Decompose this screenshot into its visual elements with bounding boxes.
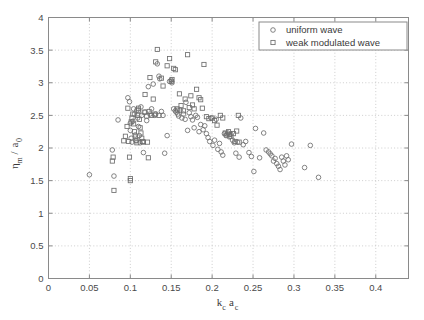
y-tick-label: 2 xyxy=(38,142,43,153)
x-tick-label: 0.2 xyxy=(206,282,219,293)
data-point-square xyxy=(200,106,204,110)
y-tick-label: 0 xyxy=(38,273,43,284)
legend-label-0: uniform wave xyxy=(286,24,343,35)
data-point-circle xyxy=(257,155,262,160)
data-point-square xyxy=(189,94,193,98)
data-point-circle xyxy=(243,139,248,144)
y-tick-label: 1.5 xyxy=(30,175,43,186)
y-tick-label: 3 xyxy=(38,77,43,88)
data-point-circle xyxy=(127,99,132,104)
y-axis-title-a: a xyxy=(8,142,20,147)
y-axis-title-eta-sub: m xyxy=(15,157,24,164)
x-tick-label: 0 xyxy=(46,282,51,293)
x-tick-label: 0.15 xyxy=(162,282,181,293)
data-point-circle xyxy=(116,118,121,123)
x-axis-title-a: a xyxy=(229,296,234,308)
data-point-circle xyxy=(302,165,307,170)
data-point-circle xyxy=(217,141,222,146)
data-point-circle xyxy=(202,124,207,129)
axis-ticks: 00.050.10.150.20.250.30.350.400.511.522.… xyxy=(30,12,408,293)
data-point-circle xyxy=(261,131,266,136)
y-tick-label: 4 xyxy=(38,12,43,23)
data-point-circle xyxy=(286,157,291,162)
x-tick-label: 0.3 xyxy=(287,282,300,293)
data-point-circle xyxy=(141,150,146,155)
data-point-circle xyxy=(253,126,258,131)
data-point-circle xyxy=(146,84,151,89)
y-tick-label: 1 xyxy=(38,208,43,219)
data-point-circle xyxy=(162,151,167,156)
data-point-square xyxy=(185,53,189,57)
data-point-circle xyxy=(185,128,190,133)
x-axis-title-k-sub: c xyxy=(222,303,226,312)
y-axis-title-a-sub: 0 xyxy=(15,138,24,142)
data-point-square xyxy=(155,47,159,51)
data-point-square xyxy=(202,62,206,66)
data-point-circle xyxy=(207,139,212,144)
data-point-circle xyxy=(112,174,117,179)
data-point-circle xyxy=(283,163,288,168)
data-point-square xyxy=(194,87,198,91)
data-point-square xyxy=(122,139,126,143)
x-tick-label: 0.1 xyxy=(124,282,137,293)
y-tick-label: 3.5 xyxy=(30,45,43,56)
data-point-square xyxy=(123,134,127,138)
data-point-circle xyxy=(110,148,115,153)
x-tick-label: 0.35 xyxy=(326,282,345,293)
data-point-circle xyxy=(165,133,170,138)
data-point-circle xyxy=(151,82,156,87)
data-point-square xyxy=(161,84,165,88)
data-point-square xyxy=(151,97,155,101)
legend: uniform waveweak modulated wave xyxy=(259,22,407,50)
data-point-circle xyxy=(252,169,257,174)
data-point-square xyxy=(215,123,219,127)
data-point-square xyxy=(165,64,169,68)
data-point-circle xyxy=(234,151,239,156)
data-point-square xyxy=(143,92,147,96)
data-point-square xyxy=(173,68,177,72)
y-tick-label: 2.5 xyxy=(30,110,43,121)
data-point-square xyxy=(172,66,176,70)
data-point-square xyxy=(112,188,116,192)
x-axis-title-a-sub: c xyxy=(235,303,239,312)
scatter-plot: 00.050.10.150.20.250.30.350.400.511.522.… xyxy=(0,0,424,320)
x-tick-label: 0.4 xyxy=(369,282,382,293)
x-tick-label: 0.25 xyxy=(244,282,263,293)
data-point-square xyxy=(127,155,131,159)
data-point-circle xyxy=(237,155,242,160)
gridlines xyxy=(49,18,409,279)
data-point-circle xyxy=(212,138,217,143)
data-point-square xyxy=(126,106,130,110)
y-tick-label: 0.5 xyxy=(30,240,43,251)
data-point-circle xyxy=(136,124,141,129)
data-point-circle xyxy=(289,142,294,147)
series-uniform-wave xyxy=(87,62,321,180)
data-point-square xyxy=(177,92,181,96)
y-axis-title: ηm/a0 xyxy=(8,138,24,169)
x-tick-label: 0.05 xyxy=(80,282,99,293)
data-point-circle xyxy=(211,143,216,148)
data-point-square xyxy=(145,140,149,144)
legend-label-1: weak modulated wave xyxy=(285,37,380,48)
x-axis-title: kcac xyxy=(217,296,239,312)
data-point-square xyxy=(148,75,152,79)
data-point-square xyxy=(146,156,150,160)
data-point-circle xyxy=(308,143,313,148)
series-weak-modulated-wave xyxy=(110,47,241,192)
data-point-circle xyxy=(316,175,321,180)
data-point-circle xyxy=(144,118,149,123)
data-point-circle xyxy=(249,154,254,159)
y-axis-title-slash: / xyxy=(8,151,20,155)
data-point-square xyxy=(179,103,183,107)
data-point-circle xyxy=(192,125,197,130)
chart-figure: 00.050.10.150.20.250.30.350.400.511.522.… xyxy=(0,0,424,320)
